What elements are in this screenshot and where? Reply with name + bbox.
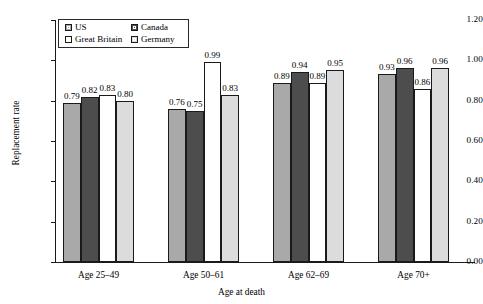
legend-swatch-canada-icon: [131, 24, 138, 31]
bar-slot: 0.82: [81, 20, 99, 262]
bar-canada[interactable]: [396, 68, 414, 262]
x-axis-category-label: Age 50–61: [154, 270, 253, 280]
bar-slot: 0.96: [431, 20, 449, 262]
bar-germany[interactable]: [431, 68, 449, 262]
bar-germany[interactable]: [221, 95, 239, 262]
legend-item-canada[interactable]: Canada: [131, 23, 168, 32]
bar-slot: 0.93: [378, 20, 396, 262]
bar-slot: 0.99: [204, 20, 222, 262]
bar-great-britain[interactable]: [99, 95, 117, 262]
bar-germany[interactable]: [116, 101, 134, 262]
bar-value-label: 0.93: [379, 63, 395, 72]
y-axis-title: Replacement rate: [11, 73, 21, 193]
bar-great-britain[interactable]: [309, 83, 327, 262]
bar-canada[interactable]: [186, 111, 204, 262]
bar-slot: 0.89: [273, 20, 291, 262]
bar-slot: 0.83: [221, 20, 239, 262]
legend-item-us[interactable]: US: [65, 23, 87, 32]
bar-value-label: 0.83: [100, 84, 116, 93]
bar-us[interactable]: [273, 83, 291, 262]
bar-group: 0.890.940.890.95: [273, 20, 344, 262]
bar-slot: 0.83: [99, 20, 117, 262]
legend-swatch-germany-icon: [131, 36, 138, 43]
bar-value-label: 0.79: [64, 92, 80, 101]
bar-slot: 0.86: [414, 20, 432, 262]
bar-value-label: 0.86: [415, 78, 431, 87]
bar-great-britain[interactable]: [414, 89, 432, 262]
legend-label: Great Britain: [75, 35, 122, 44]
bar-slot: 0.80: [116, 20, 134, 262]
bar-chart-figure: 0.000.200.400.600.801.001.20 Replacement…: [0, 0, 483, 304]
bar-slot: 0.79: [63, 20, 81, 262]
legend-item-great-britain[interactable]: Great Britain: [65, 35, 122, 44]
legend-label: Germany: [141, 35, 175, 44]
bar-value-label: 0.76: [169, 98, 185, 107]
bar-slot: 0.89: [309, 20, 327, 262]
bar-group: 0.930.960.860.96: [378, 20, 449, 262]
x-axis-category-label: Age 25–49: [49, 270, 148, 280]
legend-swatch-great-britain-icon: [65, 36, 72, 43]
x-axis-category-label: Age 70+: [364, 270, 463, 280]
bar-us[interactable]: [168, 109, 186, 262]
legend-item-germany[interactable]: Germany: [131, 35, 175, 44]
bar-group: 0.790.820.830.80: [63, 20, 134, 262]
plot-area: 0.790.820.830.800.760.750.990.830.890.94…: [55, 20, 475, 262]
bar-value-label: 0.96: [397, 57, 413, 66]
bar-value-label: 0.82: [82, 86, 98, 95]
bar-value-label: 0.89: [274, 72, 290, 81]
bar-germany[interactable]: [326, 70, 344, 262]
legend-swatch-us-icon: [65, 24, 72, 31]
bar-slot: 0.75: [186, 20, 204, 262]
x-axis-title: Age at death: [0, 287, 483, 297]
bar-slot: 0.76: [168, 20, 186, 262]
bar-us[interactable]: [63, 103, 81, 262]
bar-canada[interactable]: [291, 72, 309, 262]
x-axis-line: [55, 262, 475, 263]
bar-great-britain[interactable]: [204, 62, 222, 262]
bar-value-label: 0.83: [222, 84, 238, 93]
x-axis-category-label: Age 62–69: [259, 270, 358, 280]
bar-slot: 0.94: [291, 20, 309, 262]
bar-value-label: 0.80: [117, 90, 133, 99]
legend-box: USCanadaGreat BritainGermany: [58, 19, 189, 48]
bar-value-label: 0.89: [310, 72, 326, 81]
bar-slot: 0.95: [326, 20, 344, 262]
legend-label: US: [75, 23, 87, 32]
bar-value-label: 0.75: [187, 100, 203, 109]
bar-slot: 0.96: [396, 20, 414, 262]
bar-canada[interactable]: [81, 97, 99, 262]
bar-value-label: 0.94: [292, 61, 308, 70]
bar-us[interactable]: [378, 74, 396, 262]
bar-value-label: 0.96: [432, 57, 448, 66]
legend-label: Canada: [141, 23, 168, 32]
bar-group: 0.760.750.990.83: [168, 20, 239, 262]
bar-value-label: 0.95: [327, 59, 343, 68]
y-axis-tick: [51, 262, 56, 263]
bar-value-label: 0.99: [205, 51, 221, 60]
